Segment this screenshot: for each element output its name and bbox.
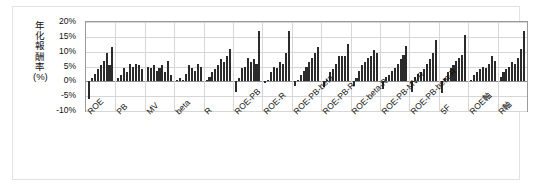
x-axis-tick: ROE-PB — [233, 87, 262, 116]
x-axis-tick: R軸 — [497, 99, 514, 116]
x-axis-tick: beta — [174, 98, 192, 116]
x-axis-tick: ROE — [86, 97, 105, 116]
x-axis-tick: R — [203, 106, 214, 117]
x-axis-tick-labels: ROEPBMVbetaRROE-PBROE-RROE-PB-betaROE-PB… — [13, 7, 533, 192]
x-axis-tick: 5F — [439, 103, 452, 116]
x-axis-tick: PB — [115, 102, 129, 116]
x-axis-tick: ROE-R — [262, 91, 288, 117]
x-axis-tick: ROE軸 — [468, 91, 494, 117]
chart-frame: 年化報酬率(%) 20%15%10%5%0%-5%-10% ROEPBMVbet… — [12, 6, 520, 180]
x-axis-tick: MV — [145, 101, 160, 116]
